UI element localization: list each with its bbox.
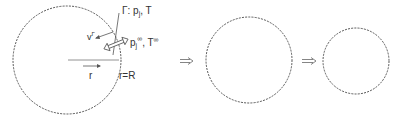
droplet-stage-2 <box>206 17 292 103</box>
transition-arrow-1 <box>180 58 193 65</box>
droplet-stage-3 <box>323 28 389 94</box>
droplet-diagram: Γ: pj, T vΓ pj∞, T∞ r r=R <box>0 0 402 121</box>
transition-arrow-2 <box>302 58 316 65</box>
boundary-label: r=R <box>119 70 135 81</box>
velocity-label: vΓ <box>87 31 96 42</box>
far-field-label: pj∞, T∞ <box>130 35 159 50</box>
radius-label: r <box>89 70 93 81</box>
radius-arrowhead <box>97 64 101 68</box>
velocity-arrowhead <box>95 35 100 39</box>
interface-label: Γ: pj, T <box>122 5 152 18</box>
flux-double-arrow <box>102 35 129 52</box>
